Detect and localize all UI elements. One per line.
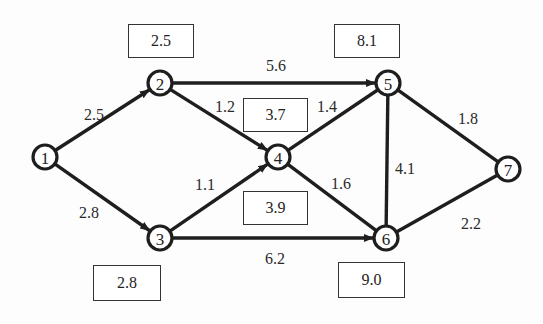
edge-weight-label: 1.8 <box>458 110 478 127</box>
node-7: 7 <box>496 157 520 181</box>
node-label: 5 <box>384 75 393 94</box>
time-value-box: 2.8 <box>93 265 161 301</box>
edge-1-3 <box>55 164 150 231</box>
edge-weight-label: 1.1 <box>195 176 215 193</box>
edge-weight-label: 1.6 <box>331 175 351 192</box>
edge-weight-label: 1.2 <box>215 98 235 115</box>
node-label: 6 <box>382 230 391 249</box>
edge-weight-label: 6.2 <box>265 250 285 267</box>
network-diagram: 2.52.85.61.21.16.21.41.64.11.82.2 123456… <box>0 0 543 324</box>
node-label: 4 <box>274 149 283 168</box>
time-value-box: 3.7 <box>243 98 308 132</box>
node-2: 2 <box>148 71 172 95</box>
edge-5-7 <box>398 90 498 161</box>
graph-svg: 2.52.85.61.21.16.21.41.64.11.82.2 123456… <box>0 0 543 324</box>
time-value-box: 8.1 <box>334 24 400 58</box>
node-4: 4 <box>266 145 290 169</box>
edge-weight-label: 5.6 <box>266 57 286 74</box>
edge-6-7 <box>396 175 496 232</box>
node-label: 3 <box>156 230 165 249</box>
edge-weight-label: 2.5 <box>84 106 104 123</box>
time-value-box: 3.9 <box>243 191 308 225</box>
edge-weight-label: 1.4 <box>317 98 337 115</box>
edge-weight-label: 4.1 <box>395 160 415 177</box>
node-3: 3 <box>148 226 172 250</box>
edge-weight-label: 2.2 <box>461 215 481 232</box>
node-label: 7 <box>504 161 513 180</box>
node-6: 6 <box>374 226 398 250</box>
edge-weight-label: 2.8 <box>79 204 99 221</box>
time-value-box: 2.5 <box>128 24 194 58</box>
node-label: 1 <box>41 149 50 168</box>
node-1: 1 <box>33 145 57 169</box>
edge-5-6 <box>386 95 388 225</box>
node-5: 5 <box>376 71 400 95</box>
node-label: 2 <box>156 75 165 94</box>
time-value-box: 9.0 <box>338 262 405 298</box>
